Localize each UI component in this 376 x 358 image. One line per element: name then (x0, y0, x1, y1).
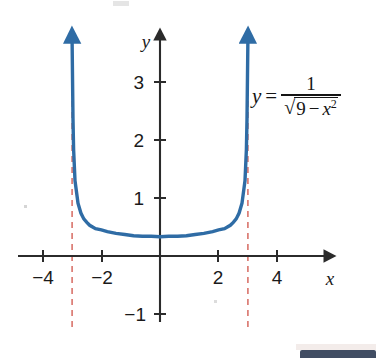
function-curve-right-branch (160, 40, 248, 237)
figure-canvas: −4 −2 2 4 3 2 1 −1 x y y = 1 √ 9−x2 (0, 0, 376, 358)
equation-annotation: y = 1 √ 9−x2 (252, 74, 341, 119)
radicand-exponent: 2 (331, 96, 337, 110)
y-axis-label: y (140, 31, 151, 52)
function-curve-left-branch (72, 40, 160, 237)
x-tick-label-4: 4 (272, 267, 283, 288)
y-tick-label-minus1: −1 (124, 304, 146, 325)
equation-denominator: √ 9−x2 (281, 96, 341, 119)
equation-radical: √ 9−x2 (284, 97, 338, 119)
equation-numerator: 1 (302, 74, 320, 94)
y-tick-label-1: 1 (133, 188, 144, 209)
radicand-variable: x (322, 98, 330, 119)
plot-area: −4 −2 2 4 3 2 1 −1 x y (0, 0, 376, 358)
radicand-nine: 9 (296, 98, 306, 119)
y-tick-label-2: 2 (133, 130, 144, 151)
equation-lhs: y (252, 86, 261, 107)
x-tick-label-minus2: −2 (91, 267, 113, 288)
x-tick-label-2: 2 (213, 267, 224, 288)
equation-equals-sign: = (265, 86, 277, 107)
y-tick-label-3: 3 (133, 72, 144, 93)
radicand-minus-sign: − (306, 98, 323, 119)
scan-artifact-bottom-bar (300, 350, 376, 358)
equation-fraction: 1 √ 9−x2 (281, 74, 341, 119)
x-axis-label: x (325, 268, 335, 289)
equation-radicand: 9−x2 (294, 97, 338, 119)
x-tick-label-minus4: −4 (32, 267, 54, 288)
